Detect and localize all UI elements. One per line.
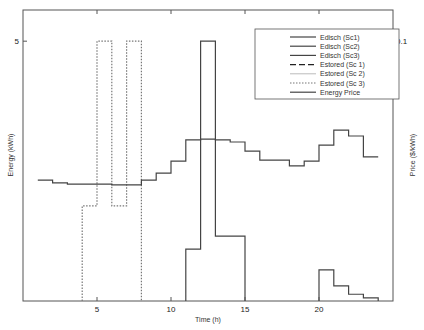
x-axis-label: Time (h) [195,316,221,324]
svg-text:20: 20 [315,305,324,314]
legend: Edisch (Sc1)Edisch (Sc2)Edisch (Sc3)Esto… [255,29,399,99]
chart: 5101520 50.1 Time (h) Energy (kWh) Price… [0,0,424,330]
legend-entry: Estored (Sc 2) [320,70,365,78]
legend-entry: Edisch (Sc3) [320,52,360,60]
legend-entry: Estored (Sc 1) [320,61,365,69]
svg-text:15: 15 [241,305,250,314]
svg-text:5: 5 [15,37,20,46]
legend-entry: Energy Price [320,89,360,97]
y-axis-right-label: Price ($/kWh) [409,134,417,176]
y-axis-label: Energy (kWh) [7,134,15,177]
legend-entry: Edisch (Sc1) [320,34,360,42]
svg-text:10: 10 [167,305,176,314]
legend-entry: Edisch (Sc2) [320,43,360,51]
svg-text:5: 5 [95,305,100,314]
legend-entry: Estored (Sc 3) [320,80,365,88]
